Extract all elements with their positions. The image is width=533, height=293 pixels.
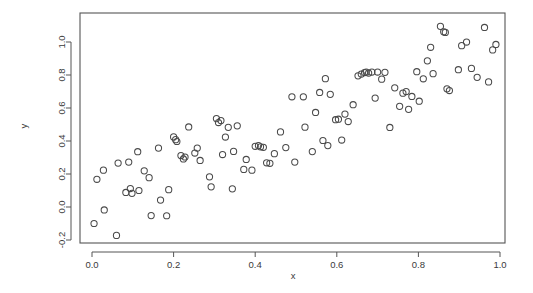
data-point <box>372 95 378 101</box>
data-point <box>141 168 147 174</box>
y-axis-tick-label: 0.2 <box>56 167 67 180</box>
data-point <box>428 44 434 50</box>
y-axis-tick-label: 0.0 <box>56 200 67 213</box>
data-point <box>312 109 318 115</box>
data-point <box>327 91 333 97</box>
data-point <box>350 102 356 108</box>
data-point <box>493 41 499 47</box>
y-axis-tick-label: 0.4 <box>56 134 67 147</box>
data-point <box>322 76 328 82</box>
data-point <box>397 103 403 109</box>
data-point <box>485 79 491 85</box>
data-point <box>94 176 100 182</box>
data-point <box>234 123 240 129</box>
data-point <box>345 118 351 124</box>
data-point <box>382 69 388 75</box>
x-axis-tick-label: 0.2 <box>167 259 180 270</box>
y-axis-tick-label: 0.6 <box>56 101 67 114</box>
x-axis: 0.00.20.40.60.81.0 <box>85 252 506 270</box>
data-point <box>208 184 214 190</box>
data-point <box>206 174 212 180</box>
data-point <box>317 89 323 95</box>
y-axis-title: y <box>18 123 29 128</box>
data-point <box>455 67 461 73</box>
data-point <box>91 220 97 226</box>
data-point <box>174 138 180 144</box>
data-point <box>186 124 192 130</box>
data-point <box>387 124 393 130</box>
data-point <box>219 151 225 157</box>
data-point <box>414 69 420 75</box>
x-axis-tick-label: 0.6 <box>330 259 343 270</box>
data-point <box>230 148 236 154</box>
data-point <box>406 106 412 112</box>
data-point <box>241 166 247 172</box>
y-axis-tick-label: 1.0 <box>56 35 67 48</box>
data-point <box>135 149 141 155</box>
data-point <box>416 98 422 104</box>
data-point <box>194 145 200 151</box>
x-axis-tick-label: 0.8 <box>412 259 425 270</box>
data-point <box>101 207 107 213</box>
plot-frame <box>80 13 505 243</box>
data-point <box>222 134 228 140</box>
data-point <box>292 159 298 165</box>
data-point <box>148 212 154 218</box>
data-point <box>113 232 119 238</box>
data-point <box>225 124 231 130</box>
data-point <box>164 213 170 219</box>
data-point <box>182 154 188 160</box>
data-point <box>100 167 106 173</box>
data-point <box>197 157 203 163</box>
data-point <box>277 129 283 135</box>
data-point <box>300 94 306 100</box>
data-point <box>136 187 142 193</box>
data-point <box>157 197 163 203</box>
data-point <box>126 159 132 165</box>
data-point <box>320 137 326 143</box>
data-point <box>155 145 161 151</box>
data-point <box>342 111 348 117</box>
data-point <box>463 39 469 45</box>
data-points-layer <box>91 23 499 238</box>
data-point <box>339 137 345 143</box>
data-point <box>309 148 315 154</box>
x-axis-tick-label: 0.0 <box>85 259 98 270</box>
data-point <box>325 143 331 149</box>
data-point <box>481 24 487 30</box>
data-point <box>229 186 235 192</box>
x-axis-title: x <box>291 270 296 281</box>
data-point <box>424 58 430 64</box>
scatter-plot-figure: 0.00.20.40.60.81.0 -0.20.00.20.40.60.81.… <box>0 0 533 293</box>
y-axis-tick-label: -0.2 <box>56 232 67 248</box>
data-point <box>468 65 474 71</box>
data-point <box>289 94 295 100</box>
plot-canvas: 0.00.20.40.60.81.0 -0.20.00.20.40.60.81.… <box>0 0 533 293</box>
data-point <box>379 76 385 82</box>
data-point <box>409 93 415 99</box>
data-point <box>302 124 308 130</box>
data-point <box>430 71 436 77</box>
data-point <box>420 76 426 82</box>
data-point <box>271 151 277 157</box>
data-point <box>392 85 398 91</box>
data-point <box>474 74 480 80</box>
data-point <box>146 175 152 181</box>
plot-border <box>80 13 505 243</box>
data-point <box>115 160 121 166</box>
y-axis-tick-label: 0.8 <box>56 68 67 81</box>
y-axis: -0.20.00.20.40.60.81.0 <box>56 35 71 248</box>
data-point <box>283 145 289 151</box>
x-axis-tick-label: 0.4 <box>249 259 262 270</box>
data-point <box>243 156 249 162</box>
data-point <box>249 167 255 173</box>
data-point <box>166 187 172 193</box>
x-axis-tick-label: 1.0 <box>493 259 506 270</box>
